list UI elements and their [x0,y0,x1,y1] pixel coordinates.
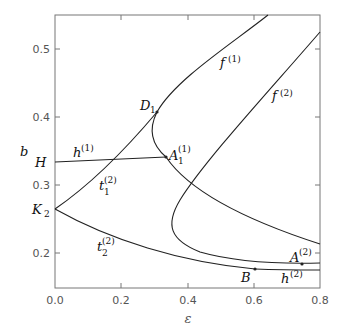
svg-text:f: f [271,88,279,103]
label-A2: A (2) [289,247,312,265]
label-D1: D 1 [139,98,156,115]
svg-text:(2): (2) [290,269,303,279]
svg-text:(1): (1) [178,144,191,154]
svg-text:(2): (2) [280,88,293,98]
svg-text:1: 1 [150,105,156,115]
point-A2 [300,262,303,265]
x-axis-label: ε [185,311,192,326]
svg-text:2: 2 [44,209,50,219]
y-tick-label: 0.3 [33,179,51,192]
curve-h1 [55,157,166,162]
y-axis-label: b [20,144,28,159]
y-tick-label: 0.4 [33,111,51,124]
x-tick-label: 0.4 [179,294,197,307]
curve-f1 [152,15,320,244]
point-A1 [164,155,167,158]
svg-text:f: f [219,55,227,70]
x-tick-label: 0.0 [46,294,64,307]
svg-text:K: K [31,202,43,217]
point-B [253,267,256,270]
label-t1: t 1 (2) [99,175,117,197]
marked-points [155,110,303,270]
svg-text:1: 1 [178,156,184,166]
label-f1: f (1) [219,54,241,70]
curve-f2 [172,32,320,263]
svg-text:2: 2 [102,248,108,258]
label-h2: h (2) [281,269,303,286]
x-tick-label: 0.6 [245,294,263,307]
svg-text:(2): (2) [104,175,117,185]
label-B: B [240,270,251,285]
svg-text:(1): (1) [81,143,94,153]
label-t2: t 2 (2) [97,236,115,258]
label-K2: K 2 [31,202,50,219]
point-D1 [155,110,158,113]
svg-text:1: 1 [104,187,110,197]
svg-text:h: h [281,271,289,286]
svg-text:(2): (2) [299,247,312,257]
label-A1-1: A 1 (1) [168,144,191,166]
y-tick-label: 0.5 [33,43,51,56]
label-H: H [34,155,47,170]
svg-text:(1): (1) [228,54,241,64]
svg-text:A: A [289,250,299,265]
x-tick-label: 0.2 [112,294,130,307]
x-tick-label: 0.8 [311,294,329,307]
label-h1: h (1) [73,143,94,160]
svg-text:(2): (2) [102,236,115,246]
curve-t2 [55,209,255,269]
y-tick-label: 0.2 [33,247,51,260]
label-f2: f (2) [271,88,293,103]
svg-text:A: A [168,148,178,163]
curves [55,15,320,270]
bifurcation-chart: 0.2 0.3 0.4 0.5 0.0 0.2 0.4 0.6 0.8 ε b … [0,0,345,335]
curve-h2 [255,269,320,270]
